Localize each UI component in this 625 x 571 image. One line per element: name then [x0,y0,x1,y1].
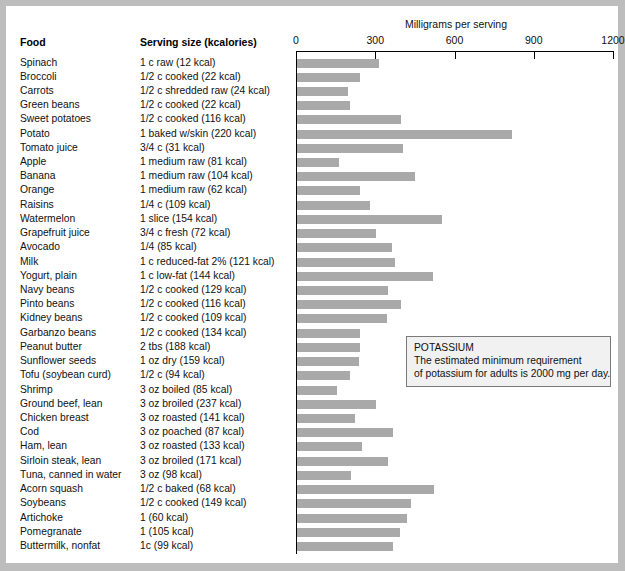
chart-row: Kidney beans1/2 c cooked (109 kcal) [6,312,618,326]
potassium-bar [297,542,393,551]
chart-row: Artichoke1 (60 kcal) [6,511,618,525]
x-axis-tick-label: 900 [525,34,543,46]
serving-size-label: 1/2 c cooked (22 kcal) [140,99,290,110]
serving-size-label: 1/2 c shredded raw (24 kcal) [140,85,290,96]
chart-row: Sirloin steak, lean3 oz broiled (171 kca… [6,454,618,468]
serving-size-label: 1 medium raw (62 kcal) [140,184,290,195]
serving-size-label: 3 oz broiled (237 kcal) [140,398,290,409]
serving-size-label: 1/2 c (94 kcal) [140,369,290,380]
potassium-bar [297,457,388,466]
chart-row: Orange1 medium raw (62 kcal) [6,184,618,198]
food-name-label: Artichoke [20,512,138,523]
potassium-bar [297,357,359,366]
food-name-label: Garbanzo beans [20,327,138,338]
food-name-label: Raisins [20,199,138,210]
serving-size-label: 1/2 c cooked (134 kcal) [140,327,290,338]
chart-row: Acorn squash1/2 c baked (68 kcal) [6,483,618,497]
serving-size-label: 1/2 c cooked (22 kcal) [140,71,290,82]
potassium-bar [297,101,350,110]
food-name-label: Ham, lean [20,440,138,451]
potassium-bar [297,215,442,224]
food-name-label: Orange [20,184,138,195]
chart-row: Tomato juice3/4 c (31 kcal) [6,141,618,155]
chart-row: Broccoli1/2 c cooked (22 kcal) [6,70,618,84]
food-name-label: Yogurt, plain [20,270,138,281]
serving-size-label: 1/2 c cooked (149 kcal) [140,497,290,508]
food-name-label: Buttermilk, nonfat [20,540,138,551]
food-name-label: Sweet potatoes [20,113,138,124]
food-name-label: Navy beans [20,284,138,295]
chart-row: Ground beef, lean3 oz broiled (237 kcal) [6,397,618,411]
food-name-label: Soybeans [20,497,138,508]
food-name-label: Cod [20,426,138,437]
chart-row: Avocado1/4 (85 kcal) [6,241,618,255]
chart-row: Cod3 oz poached (87 kcal) [6,426,618,440]
chart-row: Grapefruit juice3/4 c fresh (72 kcal) [6,227,618,241]
potassium-bar [297,286,388,295]
food-name-label: Spinach [20,57,138,68]
food-name-label: Ground beef, lean [20,398,138,409]
serving-size-label: 1 (60 kcal) [140,512,290,523]
potassium-callout-box: POTASSIUM The estimated minimum requirem… [406,336,611,387]
serving-size-label: 3 oz roasted (133 kcal) [140,440,290,451]
callout-line-2: of potassium for adults is 2000 mg per d… [414,367,603,380]
column-header-serving-size: Serving size (kcalories) [140,36,257,48]
potassium-bar [297,414,355,423]
x-axis-tick-label: 600 [446,34,464,46]
potassium-bar [297,400,376,409]
potassium-bar [297,499,411,508]
serving-size-label: 3 oz boiled (85 kcal) [140,384,290,395]
serving-size-label: 2 tbs (188 kcal) [140,341,290,352]
potassium-bar [297,158,339,167]
potassium-bar [297,87,348,96]
food-name-label: Green beans [20,99,138,110]
chart-row: Pomegranate1 (105 kcal) [6,525,618,539]
food-name-label: Potato [20,128,138,139]
food-name-label: Kidney beans [20,312,138,323]
serving-size-label: 1/4 c (109 kcal) [140,199,290,210]
potassium-bar [297,229,376,238]
potassium-bar [297,258,395,267]
chart-row: Ham, lean3 oz roasted (133 kcal) [6,440,618,454]
potassium-bar [297,485,434,494]
chart-row: Spinach1 c raw (12 kcal) [6,56,618,70]
food-name-label: Tuna, canned in water [20,469,138,480]
serving-size-label: 1/2 c cooked (109 kcal) [140,312,290,323]
chart-row: Raisins1/4 c (109 kcal) [6,198,618,212]
food-name-label: Milk [20,256,138,267]
food-name-label: Peanut butter [20,341,138,352]
serving-size-label: 1 c raw (12 kcal) [140,57,290,68]
serving-size-label: 3 oz poached (87 kcal) [140,426,290,437]
food-name-label: Avocado [20,241,138,252]
serving-size-label: 3 oz (98 kcal) [140,469,290,480]
serving-size-label: 1 medium raw (81 kcal) [140,156,290,167]
chart-row: Watermelon1 slice (154 kcal) [6,212,618,226]
x-axis-title: Milligrams per serving [336,18,576,30]
food-name-label: Banana [20,170,138,181]
chart-row: Tuna, canned in water3 oz (98 kcal) [6,468,618,482]
potassium-bar [297,343,360,352]
chart-row: Navy beans1/2 c cooked (129 kcal) [6,284,618,298]
potassium-bar [297,528,400,537]
serving-size-label: 1 slice (154 kcal) [140,213,290,224]
serving-size-label: 1 (105 kcal) [140,526,290,537]
chart-row: Yogurt, plain1 c low-fat (144 kcal) [6,269,618,283]
potassium-bar [297,201,370,210]
chart-sheet: Milligrams per serving Food Serving size… [6,6,618,563]
chart-row: Soybeans1/2 c cooked (149 kcal) [6,497,618,511]
serving-size-label: 1 oz dry (159 kcal) [140,355,290,366]
potassium-bar [297,115,401,124]
serving-size-label: 1 baked w/skin (220 kcal) [140,128,290,139]
column-header-food: Food [20,36,46,48]
serving-size-label: 3 oz broiled (171 kcal) [140,455,290,466]
potassium-bar [297,243,392,252]
potassium-bar [297,73,360,82]
potassium-bar [297,172,415,181]
potassium-bar [297,514,407,523]
serving-size-label: 1c (99 kcal) [140,540,290,551]
potassium-bar [297,371,350,380]
chart-row: Potato1 baked w/skin (220 kcal) [6,127,618,141]
chart-row: Chicken breast3 oz roasted (141 kcal) [6,411,618,425]
potassium-bar [297,442,362,451]
chart-rows: Spinach1 c raw (12 kcal)Broccoli1/2 c co… [6,56,618,554]
